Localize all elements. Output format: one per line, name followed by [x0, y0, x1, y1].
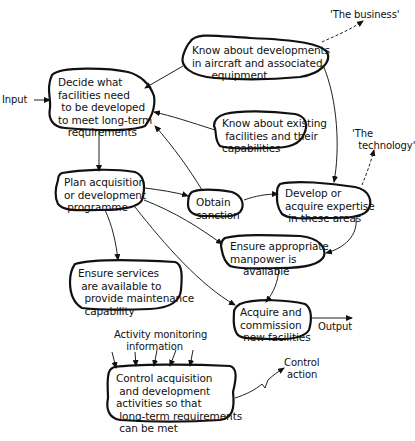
- edge-monitor-1: [112, 352, 116, 368]
- input-label: Input: [2, 94, 27, 106]
- edge-sanction-to-decide: [155, 126, 202, 190]
- node-expertise-label: Develop or acquire expertise in these ar…: [285, 187, 375, 225]
- edge-monitor-2: [135, 352, 136, 366]
- node-plan-label: Plan acquisition or development programm…: [64, 176, 146, 214]
- output-label: Output: [318, 321, 352, 333]
- node-control-label: Control acquisition and development acti…: [116, 372, 242, 435]
- node-services-label: Ensure services are available to provide…: [78, 267, 194, 317]
- node-know-existing-label: Know about existing facilities and their…: [222, 117, 327, 155]
- node-acquire-label: Acquire and commission new facilities: [240, 306, 311, 344]
- edge-control-to-action: [235, 368, 284, 398]
- edge-know-dev-to-business: [322, 21, 363, 42]
- node-know-developments-label: Know about developments in aircraft and …: [192, 44, 330, 82]
- monitoring-label: Activity monitoring information: [114, 329, 207, 353]
- edge-sanction-to-expertise: [244, 194, 278, 200]
- edge-know-exist-to-decide: [154, 112, 215, 130]
- business-label: 'The business': [330, 9, 399, 21]
- technology-label: 'The technology': [352, 128, 415, 152]
- node-decide-label: Decide what facilities need to be develo…: [58, 76, 152, 139]
- edge-plan-to-sanction: [145, 188, 188, 196]
- control-action-label: Control action: [284, 357, 319, 381]
- node-sanction-label: Obtain sanction: [196, 196, 240, 221]
- edge-plan-to-services: [105, 210, 118, 260]
- edge-expertise-to-technology: [362, 150, 374, 185]
- node-manpower-label: Ensure appropriate manpower is available: [230, 240, 329, 278]
